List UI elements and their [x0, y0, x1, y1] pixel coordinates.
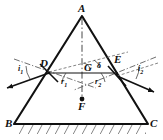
entry-point-D-dot	[48, 72, 50, 74]
angle-arc-r2	[101, 73, 105, 82]
label-point-F: F	[78, 101, 85, 112]
label-vertex-A: A	[78, 3, 85, 14]
label-vertex-C: C	[150, 118, 157, 129]
label-angle-r2: r2	[95, 78, 101, 88]
label-angle-r1: r1	[61, 78, 67, 88]
label-angle-i2: i2	[138, 65, 143, 75]
emergent-ray-through-E	[108, 66, 126, 86]
exit-point-E-dot	[116, 73, 118, 75]
label-point-D: D	[40, 58, 48, 69]
angle-arc-i1	[26, 66, 30, 79]
label-point-G: G	[84, 62, 92, 73]
label-angle-i1: i1	[18, 65, 23, 75]
label-angle-delta: δ	[97, 62, 101, 70]
prism-refraction-diagram: A B C D E F G i1 r1 r2 i2 δ	[0, 0, 163, 140]
ground-hatching	[16, 125, 146, 134]
label-vertex-B: B	[5, 118, 12, 129]
label-point-E: E	[114, 54, 121, 65]
